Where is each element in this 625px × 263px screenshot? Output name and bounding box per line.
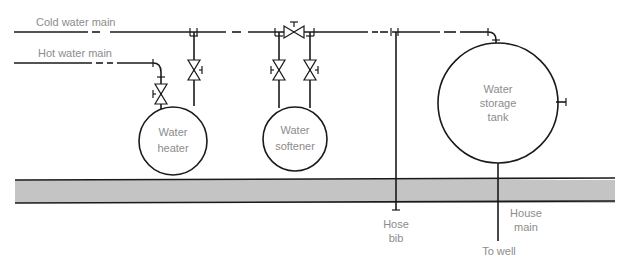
house-main-label-line1: House	[510, 207, 542, 219]
cold-water-main-pipe	[14, 28, 500, 43]
water-heater-tank: Water heater	[139, 107, 207, 175]
water-heater-label-line1: Water	[159, 126, 188, 138]
storage-tank-label-line3: tank	[488, 111, 509, 123]
hot-water-main-pipe	[14, 59, 165, 81]
water-softener-label-line1: Water	[281, 124, 310, 136]
floor-slab	[15, 178, 615, 203]
storage-tank-label-line1: Water	[484, 83, 513, 95]
bypass-valve-icon	[284, 22, 304, 38]
water-softener-label-line2: softener	[275, 140, 315, 152]
to-well-label: To well	[482, 245, 516, 257]
water-softener-piping	[271, 28, 318, 108]
hose-bib-label-line1: Hose	[383, 218, 409, 230]
plumbing-diagram: Water heater Water softener Water storag…	[0, 0, 625, 263]
water-heater-label-line2: heater	[157, 142, 189, 154]
cold-water-main-label: Cold water main	[36, 16, 115, 28]
water-storage-tank: Water storage tank	[438, 43, 566, 163]
hose-bib-label-line2: bib	[389, 232, 404, 244]
hot-water-main-label: Hot water main	[38, 47, 112, 59]
storage-tank-label-line2: storage	[480, 97, 517, 109]
water-softener-tank: Water softener	[263, 107, 327, 171]
house-main-label-line2: main	[514, 221, 538, 233]
